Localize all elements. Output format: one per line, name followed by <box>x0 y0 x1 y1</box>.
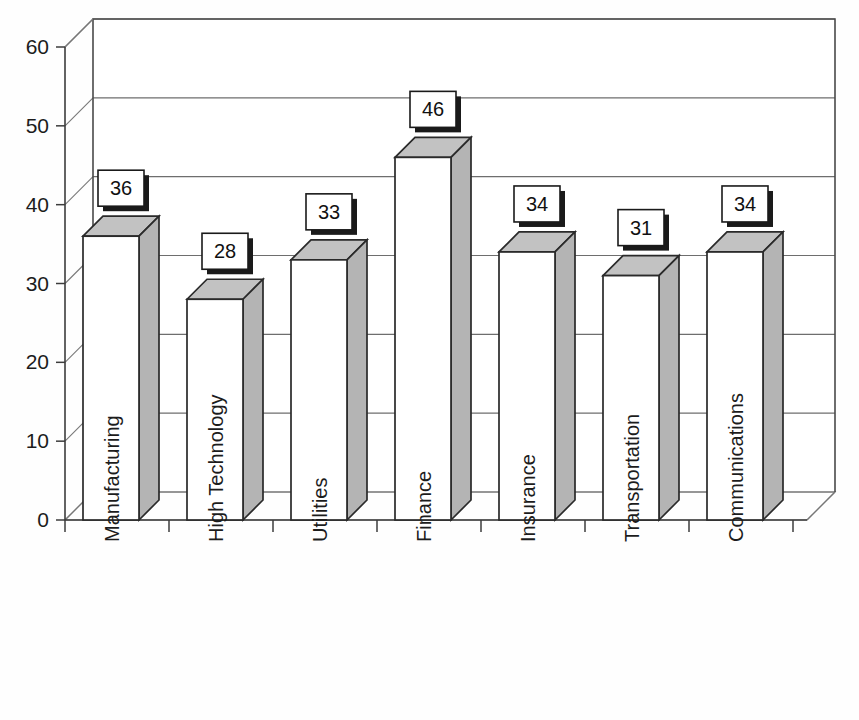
data-label-callout: 34 <box>722 186 773 227</box>
bar-side-face <box>243 279 263 520</box>
bar-side-face <box>555 232 575 520</box>
category-label: Transportation <box>621 414 643 542</box>
chart-container: 0102030405060 36283346343134 Manufacturi… <box>0 0 859 720</box>
y-tick-label: 20 <box>26 350 49 373</box>
data-label-value: 28 <box>214 240 236 262</box>
data-label-value: 31 <box>630 217 652 239</box>
data-label-value: 36 <box>110 177 132 199</box>
y-tick-label: 50 <box>26 114 49 137</box>
category-label: Finance <box>413 471 435 542</box>
y-tick-label: 10 <box>26 429 49 452</box>
y-tick-label: 60 <box>26 35 49 58</box>
data-label-callout: 28 <box>202 233 253 274</box>
data-label-callout: 34 <box>514 186 565 227</box>
category-label: High Technology <box>205 394 227 542</box>
category-label: Utilities <box>309 478 331 542</box>
category-label: Insurance <box>517 454 539 542</box>
data-label-value: 34 <box>734 193 756 215</box>
bar-front-face <box>395 157 451 520</box>
data-label-callout: 46 <box>410 91 461 132</box>
y-axis-ticks: 0102030405060 <box>26 35 65 531</box>
data-label-value: 33 <box>318 201 340 223</box>
y-tick-label: 0 <box>37 508 49 531</box>
column-chart-3d: 0102030405060 36283346343134 Manufacturi… <box>0 0 859 720</box>
bar-side-face <box>139 216 159 520</box>
bar-side-face <box>659 256 679 520</box>
category-label: Manufacturing <box>101 415 123 542</box>
data-label-callout: 31 <box>618 210 669 251</box>
gridline-depth-50 <box>65 98 93 126</box>
bar-column[interactable] <box>395 137 471 520</box>
y-tick-label: 30 <box>26 272 49 295</box>
data-label-callout: 36 <box>98 170 149 211</box>
y-tick-label: 40 <box>26 193 49 216</box>
bar-side-face <box>763 232 783 520</box>
data-label-value: 34 <box>526 193 548 215</box>
data-label-value: 46 <box>422 98 444 120</box>
category-label: Communications <box>725 393 747 542</box>
gridline-depth-40 <box>65 177 93 205</box>
bar-side-face <box>347 240 367 520</box>
data-label-callout: 33 <box>306 194 357 235</box>
bar-side-face <box>451 137 471 520</box>
